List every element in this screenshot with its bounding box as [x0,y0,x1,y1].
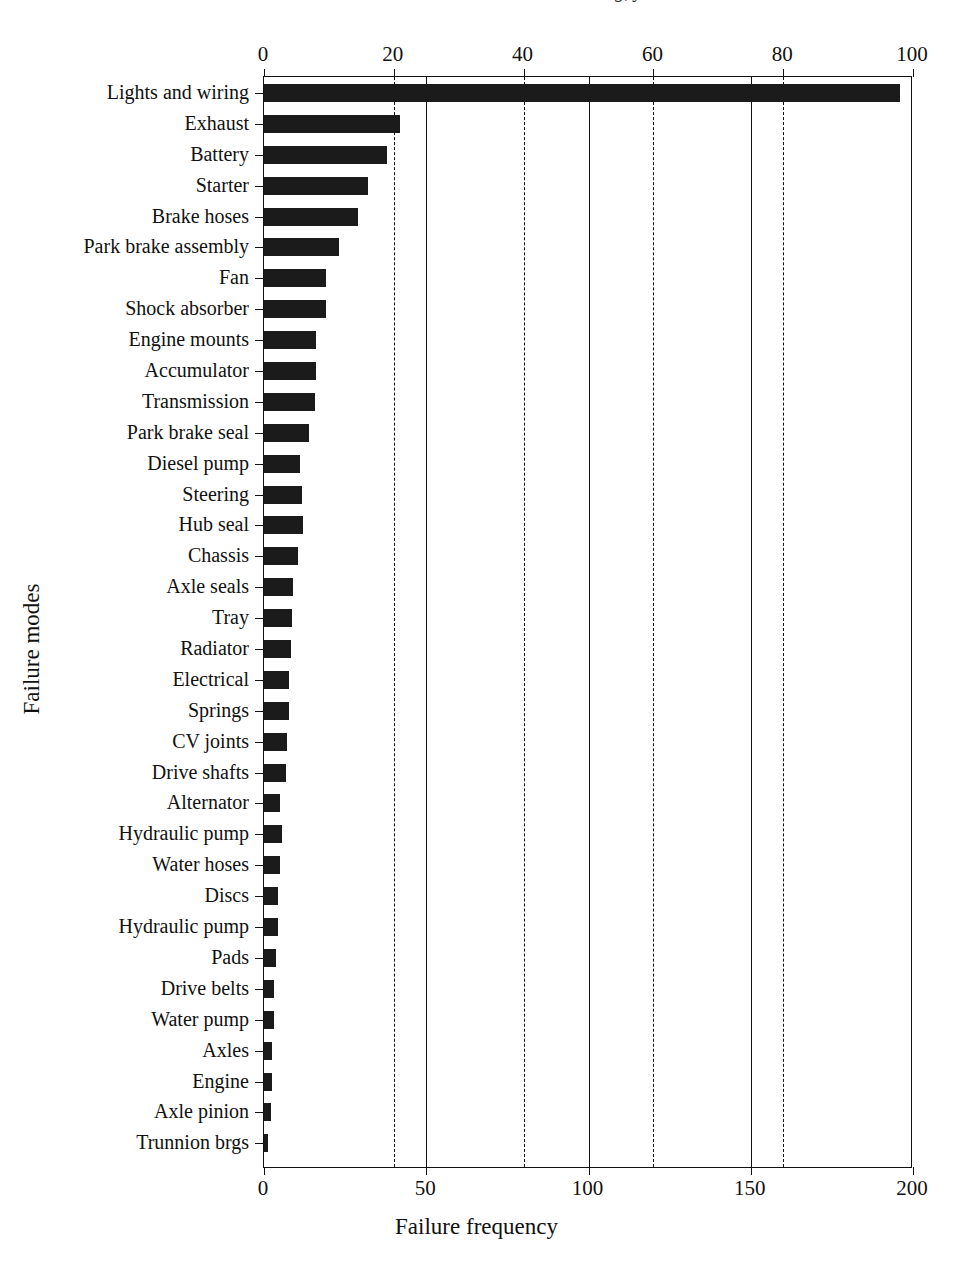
category-label: Steering [182,484,249,504]
tick-top-80 [783,69,784,77]
category-label: Lights and wiring [107,82,249,102]
category-label: Chassis [188,545,249,565]
category-label: Water pump [151,1009,249,1029]
tick-label-top-20: 20 [382,42,403,67]
tick-category-5 [255,247,264,248]
category-label: Park brake assembly [83,236,249,256]
category-label: Tray [212,607,249,627]
tick-category-10 [255,402,264,403]
tick-bottom-100 [589,1167,590,1175]
category-label: Engine mounts [128,329,249,349]
tick-category-17 [255,618,264,619]
bar-radiator [264,640,291,658]
bar-exhaust [264,115,400,133]
category-label: Hydraulic pump [118,823,249,843]
bar-water-pump [264,1011,274,1029]
bar-electrical [264,671,289,689]
category-label: Diesel pump [147,453,249,473]
tick-category-13 [255,495,264,496]
category-label: Exhaust [185,113,249,133]
x-axis-title: Failure frequency [0,1214,953,1240]
bar-drive-shafts [264,764,286,782]
tick-bottom-0 [264,1167,265,1175]
bar-engine-mounts [264,331,316,349]
category-label: Trunnion brgs [136,1132,249,1152]
category-label: Radiator [180,638,249,658]
tick-top-100 [913,69,914,77]
tick-category-26 [255,896,264,897]
category-label: Park brake seal [127,422,249,442]
tick-category-29 [255,989,264,990]
tick-label-top-100: 100 [896,42,928,67]
bar-axles [264,1042,272,1060]
bar-starter [264,177,368,195]
bar-engine [264,1073,272,1091]
bar-shock-absorber [264,300,326,318]
tick-label-bottom-100: 100 [572,1176,604,1201]
gridline-bottom-150 [751,77,752,1167]
category-label: Starter [196,175,249,195]
y-axis-title: Failure modes [19,449,45,849]
tick-category-27 [255,927,264,928]
tick-top-20 [394,69,395,77]
bar-park-brake-assembly [264,238,339,256]
tick-category-20 [255,711,264,712]
tick-bottom-150 [751,1167,752,1175]
category-label: Transmission [142,391,249,411]
category-label: Engine [192,1071,249,1091]
category-label: Brake hoses [152,206,249,226]
bar-hydraulic-pump [264,825,282,843]
tick-category-7 [255,309,264,310]
gridline-top-40 [524,77,525,1167]
category-label: Discs [205,885,249,905]
bar-park-brake-seal [264,424,309,442]
gridline-top-60 [653,77,654,1167]
tick-bottom-200 [913,1167,914,1175]
bar-discs [264,887,278,905]
tick-category-28 [255,958,264,959]
category-label: Axle seals [166,576,249,596]
tick-category-25 [255,865,264,866]
bar-brake-hoses [264,208,358,226]
category-label: Axle pinion [154,1101,249,1121]
tick-bottom-50 [426,1167,427,1175]
tick-category-18 [255,649,264,650]
cropped-caption-fragment: g, y [615,0,642,3]
bar-fan [264,269,326,287]
bar-trunnion-brgs [264,1134,268,1152]
tick-top-40 [524,69,525,77]
tick-label-top-60: 60 [642,42,663,67]
tick-category-9 [255,371,264,372]
tick-category-1 [255,124,264,125]
tick-category-11 [255,433,264,434]
gridline-top-80 [783,77,784,1167]
gridline-bottom-100 [589,77,590,1167]
bar-steering [264,486,302,504]
bar-battery [264,146,387,164]
category-label: Fan [219,267,249,287]
tick-category-33 [255,1112,264,1113]
figure-root: g, y 020406080100 050100150200 Lights an… [0,0,953,1272]
bar-hydraulic-pump [264,918,278,936]
tick-category-14 [255,525,264,526]
bar-cv-joints [264,733,287,751]
tick-category-6 [255,278,264,279]
tick-category-22 [255,773,264,774]
tick-category-32 [255,1082,264,1083]
bar-pads [264,949,276,967]
bar-accumulator [264,362,316,380]
tick-category-4 [255,217,264,218]
tick-category-0 [255,93,264,94]
tick-category-34 [255,1143,264,1144]
category-label: Hydraulic pump [118,916,249,936]
category-label: Drive shafts [152,762,249,782]
gridline-bottom-50 [426,77,427,1167]
bar-lights-and-wiring [264,84,900,102]
category-label: Drive belts [161,978,249,998]
tick-label-bottom-50: 50 [415,1176,436,1201]
tick-label-top-80: 80 [772,42,793,67]
bar-springs [264,702,289,720]
tick-category-3 [255,186,264,187]
tick-category-19 [255,680,264,681]
gridline-top-20 [394,77,395,1167]
